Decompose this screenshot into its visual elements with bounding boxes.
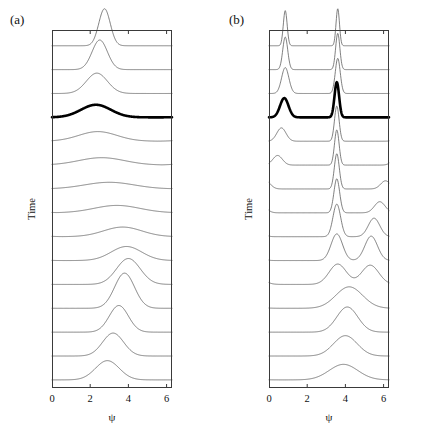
panel-a-x-axis-label: ψ: [52, 411, 172, 423]
trace: [52, 9, 172, 46]
panel-a-y-axis-label: Time: [26, 179, 40, 239]
figure-root: (a) Time ψ 0246 (b) Time ψ 0246: [0, 0, 434, 434]
panel-a-plot-area: [52, 30, 172, 388]
trace: [52, 205, 172, 212]
trace: [269, 336, 389, 356]
trace: [269, 106, 389, 141]
trace: [52, 246, 172, 260]
trace: [52, 361, 172, 380]
panel-a-chart-svg: [52, 30, 172, 388]
trace: [269, 307, 389, 332]
trace: [269, 179, 389, 213]
trace: [269, 204, 389, 237]
trace: [269, 58, 389, 93]
trace: [52, 333, 172, 356]
x-tick-label: 0: [266, 393, 271, 404]
trace: [269, 33, 389, 69]
trace: [52, 259, 172, 285]
axis-frame: [270, 31, 389, 388]
trace: [52, 182, 172, 188]
panel-b: (b) Time ψ 0246: [217, 0, 434, 434]
highlighted-trace: [269, 82, 389, 117]
panel-b-x-axis-label: ψ: [269, 411, 389, 423]
panel-b-chart-svg: [269, 30, 389, 388]
trace: [52, 306, 172, 333]
trace: [269, 287, 389, 308]
panel-a: (a) Time ψ 0246: [0, 0, 217, 434]
trace: [269, 154, 389, 189]
trace: [52, 227, 172, 237]
trace: [269, 9, 389, 46]
panel-b-plot-area: [269, 30, 389, 388]
panel-b-label: (b): [229, 12, 244, 28]
panel-a-label: (a): [10, 12, 24, 28]
x-tick-label: 4: [126, 393, 131, 404]
highlighted-trace: [52, 105, 172, 118]
x-tick-label: 0: [49, 393, 54, 404]
trace: [52, 132, 172, 142]
x-tick-label: 4: [343, 393, 348, 404]
trace: [269, 234, 389, 261]
x-tick-label: 6: [164, 393, 169, 404]
x-tick-label: 2: [305, 393, 310, 404]
trace: [52, 273, 172, 308]
trace: [52, 158, 172, 165]
axis-frame: [53, 31, 172, 388]
panel-b-y-axis-label: Time: [243, 179, 257, 239]
trace: [52, 40, 172, 70]
x-tick-label: 6: [381, 393, 386, 404]
x-tick-label: 2: [88, 393, 93, 404]
trace: [269, 264, 389, 284]
trace: [269, 364, 389, 380]
trace: [52, 73, 172, 93]
